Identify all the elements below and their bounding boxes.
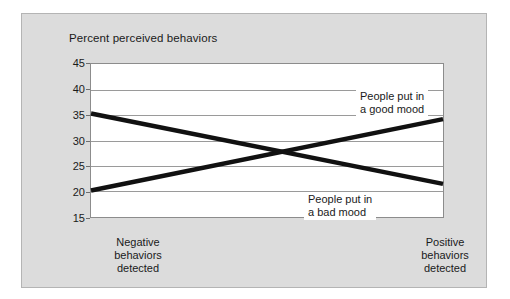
x-axis-label-positive-line3: detected	[400, 262, 490, 275]
annotation-good-mood-line2: a good mood	[360, 103, 424, 116]
x-axis-label-negative: Negative behaviors detected	[93, 236, 183, 275]
annotation-good-mood-line1: People put in	[360, 90, 424, 103]
y-tick-label-35: 35	[73, 109, 85, 121]
annotation-bad-mood: People put in a bad mood	[304, 192, 376, 220]
y-tick-label-20: 20	[73, 186, 85, 198]
y-tick-label-30: 30	[73, 135, 85, 147]
y-tick-label-45: 45	[73, 57, 85, 69]
chart-screenshot: Percent perceived behaviors 45 40 35 30 …	[0, 0, 510, 299]
x-axis-label-positive-line2: behaviors	[400, 249, 490, 262]
x-axis-label-positive-line1: Positive	[400, 236, 490, 249]
annotation-bad-mood-line2: a bad mood	[308, 206, 372, 219]
x-axis-label-negative-line2: behaviors	[93, 249, 183, 262]
y-tick-label-40: 40	[73, 83, 85, 95]
plot-area: People put in a good mood People put in …	[90, 63, 444, 218]
y-tick-label-25: 25	[73, 160, 85, 172]
x-axis-label-negative-line3: detected	[93, 262, 183, 275]
annotation-good-mood: People put in a good mood	[356, 89, 428, 117]
x-axis-label-negative-line1: Negative	[93, 236, 183, 249]
chart-title: Percent perceived behaviors	[69, 32, 217, 44]
y-tick-label-15: 15	[73, 212, 85, 224]
x-axis-label-positive: Positive behaviors detected	[400, 236, 490, 275]
y-axis-tick-labels: 45 40 35 30 25 20 15	[60, 63, 85, 218]
y-tick-mark-15	[86, 218, 90, 219]
line-bad-mood	[91, 113, 443, 183]
series-lines	[91, 64, 443, 217]
line-good-mood	[91, 119, 443, 190]
figure-container: Percent perceived behaviors 45 40 35 30 …	[21, 13, 487, 288]
annotation-bad-mood-line1: People put in	[308, 193, 372, 206]
